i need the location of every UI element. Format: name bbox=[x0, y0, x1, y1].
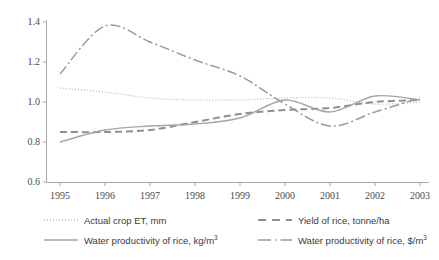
ytick-label-0-6: 0.6 bbox=[28, 176, 41, 187]
xtick-label-1997: 1997 bbox=[140, 190, 160, 201]
ytick-label-0-8: 0.8 bbox=[28, 136, 41, 147]
legend-item-actual-crop-et[interactable]: Actual crop ET, mm bbox=[44, 215, 258, 226]
x-axis-ticks bbox=[60, 183, 420, 187]
legend-label-yield-of-rice: Yield of rice, tonne/ha bbox=[298, 215, 390, 226]
solid-line-swatch-icon bbox=[44, 235, 78, 245]
y-axis-ticks bbox=[43, 22, 47, 182]
dashed-line-swatch-icon bbox=[258, 215, 292, 225]
legend-item-water-productivity-usd[interactable]: Water productivity of rice, $/m3 bbox=[258, 234, 434, 246]
series-yield-of-rice bbox=[60, 100, 420, 132]
legend-item-water-productivity-kg[interactable]: Water productivity of rice, kg/m3 bbox=[44, 234, 258, 246]
xtick-label-2000: 2000 bbox=[275, 190, 295, 201]
xtick-label-1999: 1999 bbox=[230, 190, 250, 201]
legend-label-actual-crop-et: Actual crop ET, mm bbox=[84, 215, 166, 226]
xtick-label-2003: 2003 bbox=[410, 190, 430, 201]
dash-dot-line-swatch-icon bbox=[258, 235, 292, 245]
ytick-label-1-2: 1.2 bbox=[28, 56, 41, 67]
line-chart: 1.4 1.2 1.0 0.8 0.6 bbox=[0, 0, 439, 260]
xtick-label-1995: 1995 bbox=[50, 190, 70, 201]
plot-area: 1.4 1.2 1.0 0.8 0.6 bbox=[0, 0, 439, 205]
ytick-label-1-4: 1.4 bbox=[28, 16, 41, 27]
legend-label-water-productivity-kg: Water productivity of rice, kg/m3 bbox=[84, 234, 218, 246]
xtick-label-1996: 1996 bbox=[95, 190, 115, 201]
ytick-label-1-0: 1.0 bbox=[28, 96, 41, 107]
xtick-label-2001: 2001 bbox=[320, 190, 340, 201]
xtick-label-1998: 1998 bbox=[185, 190, 205, 201]
legend-label-water-productivity-usd: Water productivity of rice, $/m3 bbox=[298, 234, 427, 246]
xtick-label-2002: 2002 bbox=[365, 190, 385, 201]
dotted-line-swatch-icon bbox=[44, 215, 78, 225]
series-actual-crop-et bbox=[60, 88, 420, 104]
chart-legend: Actual crop ET, mm Yield of rice, tonne/… bbox=[44, 210, 434, 250]
series-water-productivity-usd bbox=[60, 25, 420, 126]
legend-item-yield-of-rice[interactable]: Yield of rice, tonne/ha bbox=[258, 215, 434, 226]
